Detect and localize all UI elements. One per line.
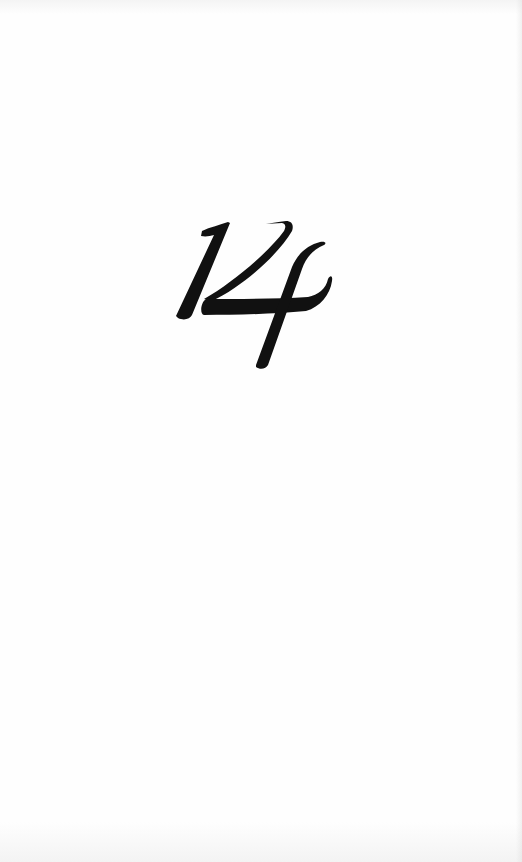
chapter-number-glyphs <box>170 215 340 375</box>
scan-bleed-bottom <box>0 822 522 862</box>
book-page: 14 <box>0 0 522 862</box>
chapter-number: 14 <box>170 215 340 375</box>
scan-bleed-top <box>0 0 522 14</box>
page-edge-shadow <box>516 0 522 862</box>
